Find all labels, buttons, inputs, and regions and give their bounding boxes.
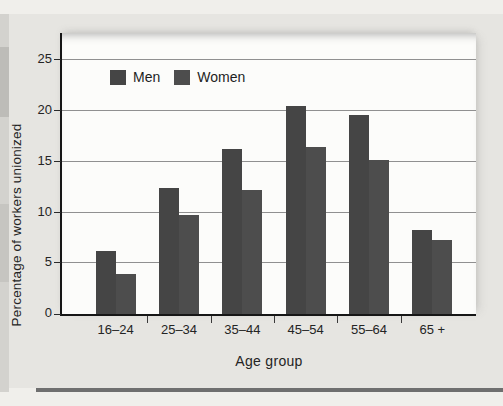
y-tick-mark-10 [54, 212, 61, 213]
y-tick-label-20: 20 [26, 103, 52, 117]
y-tick-mark-15 [54, 161, 61, 162]
x-category-label-3: 45–54 [274, 322, 338, 337]
y-tick-label-0: 0 [26, 306, 52, 320]
gridline-15 [62, 161, 476, 162]
legend-item-women: Women [174, 69, 245, 85]
bar-women-1 [179, 215, 199, 314]
plot-area: Percentage of workers unionized Men Wome… [60, 33, 476, 316]
bar-men-4 [349, 115, 369, 314]
y-tick-label-15: 15 [26, 154, 52, 168]
gridline-10 [62, 212, 476, 213]
bar-women-4 [369, 160, 389, 314]
scan-shade-patch [0, 47, 9, 117]
legend-label-women: Women [197, 69, 245, 85]
bar-men-3 [286, 106, 306, 314]
x-category-label-5: 65 + [400, 322, 464, 337]
bar-men-5 [412, 230, 432, 314]
bar-women-2 [242, 190, 262, 314]
bar-men-0 [96, 251, 116, 314]
bottom-rule [36, 388, 503, 392]
y-tick-mark-5 [54, 262, 61, 263]
legend-swatch-men [110, 70, 126, 85]
y-tick-mark-20 [54, 110, 61, 111]
legend-label-men: Men [133, 69, 160, 85]
legend-swatch-women [174, 70, 190, 85]
gridline-20 [62, 110, 476, 111]
y-axis-title: Percentage of workers unionized [9, 124, 24, 327]
bar-women-0 [116, 274, 136, 314]
legend: Men Women [110, 69, 245, 85]
x-category-label-4: 55–64 [337, 322, 401, 337]
y-tick-mark-25 [54, 59, 61, 60]
y-tick-label-10: 10 [26, 205, 52, 219]
bar-women-5 [432, 240, 452, 314]
x-category-label-1: 25–34 [147, 322, 211, 337]
x-category-label-0: 16–24 [84, 322, 148, 337]
x-category-label-2: 35–44 [210, 322, 274, 337]
y-tick-label-5: 5 [26, 255, 52, 269]
y-tick-label-25: 25 [26, 52, 52, 66]
gridline-25 [62, 59, 476, 60]
y-tick-mark-0 [54, 314, 61, 315]
x-axis-title: Age group [62, 353, 476, 369]
bar-women-3 [306, 147, 326, 314]
scanned-textbook-figure: { "chart_data": { "type": "bar", "title"… [0, 0, 503, 406]
legend-item-men: Men [110, 69, 160, 85]
bar-men-2 [222, 149, 242, 314]
bar-men-1 [159, 188, 179, 314]
